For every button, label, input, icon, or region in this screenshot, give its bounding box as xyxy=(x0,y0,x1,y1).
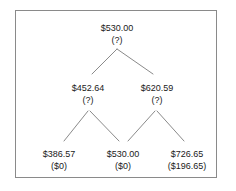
edge-mid-down-to-leaf-down-down xyxy=(64,111,88,141)
tree-node-leaf-down-down-payoff: ($0) xyxy=(43,161,76,173)
edge-mid-up-to-leaf-up-up xyxy=(157,111,184,141)
tree-node-mid-up-payoff: (?) xyxy=(141,95,174,107)
tree-node-leaf-middle: $530.00 ($0) xyxy=(107,149,140,172)
tree-node-leaf-up-up-payoff: ($196.65) xyxy=(168,161,207,173)
figure-frame: $530.00 (?) $452.64 (?) $620.59 (?) $386… xyxy=(15,10,217,178)
tree-node-mid-down: $452.64 (?) xyxy=(72,83,105,106)
tree-node-leaf-down-down-value: $386.57 xyxy=(43,149,76,161)
tree-node-mid-up-value: $620.59 xyxy=(141,83,174,95)
tree-node-mid-down-payoff: (?) xyxy=(72,95,105,107)
tree-node-leaf-middle-value: $530.00 xyxy=(107,149,140,161)
tree-node-leaf-middle-payoff: ($0) xyxy=(107,161,140,173)
edge-mid-down-to-leaf-middle xyxy=(90,111,119,141)
edge-mid-up-to-leaf-middle xyxy=(128,111,155,141)
tree-node-leaf-up-up: $726.65 ($196.65) xyxy=(168,149,207,172)
tree-node-leaf-down-down: $386.57 ($0) xyxy=(43,149,76,172)
tree-node-leaf-up-up-value: $726.65 xyxy=(168,149,207,161)
edge-root-to-mid-up xyxy=(117,49,153,74)
tree-node-mid-up: $620.59 (?) xyxy=(141,83,174,106)
edge-root-to-mid-down xyxy=(92,49,117,74)
tree-node-root: $530.00 (?) xyxy=(101,23,134,46)
tree-node-root-value: $530.00 xyxy=(101,23,134,35)
tree-node-mid-down-value: $452.64 xyxy=(72,83,105,95)
tree-node-root-payoff: (?) xyxy=(101,35,134,47)
